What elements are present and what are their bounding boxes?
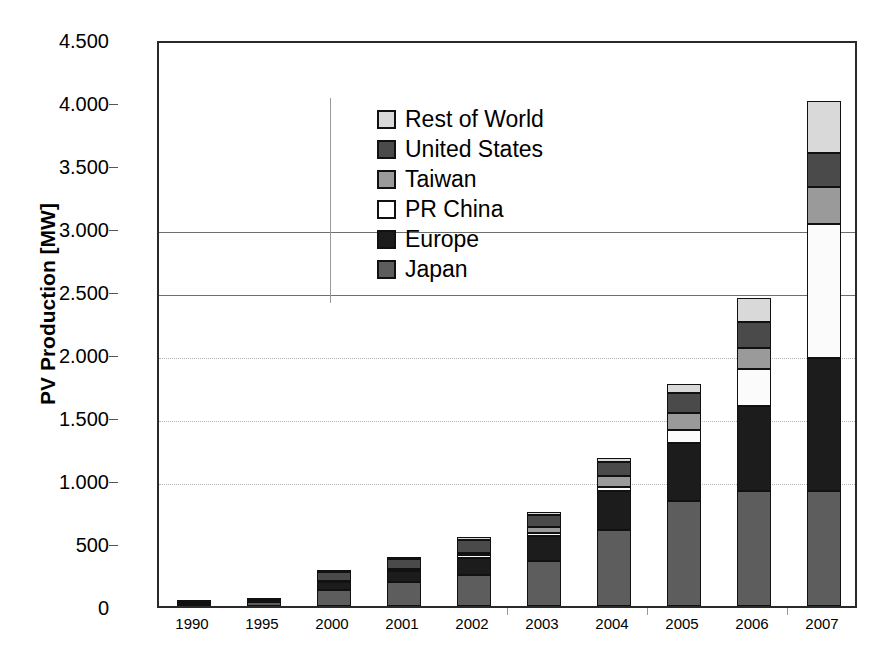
x-tick-mark (787, 608, 788, 615)
y-tick-label: 1.000 (59, 471, 109, 494)
legend-label: Europe (405, 228, 479, 251)
legend-label: Taiwan (405, 168, 477, 191)
y-tick-label: 0 (98, 597, 109, 620)
bar-segment-europe (527, 536, 561, 561)
x-tick-label-2004: 2004 (595, 615, 628, 632)
bar-2005 (667, 384, 701, 606)
x-tick-label-1990: 1990 (175, 615, 208, 632)
bar-segment-taiwan (737, 348, 771, 369)
bar-segment-united-states (807, 153, 841, 187)
y-tick-label: 1.500 (59, 408, 109, 431)
x-tick-label-2001: 2001 (385, 615, 418, 632)
bar-segment-united-states (737, 322, 771, 348)
bar-segment-pr-china (597, 487, 631, 491)
bar-segment-united-states (247, 598, 281, 600)
bar-segment-europe (387, 571, 421, 582)
x-tick-label-2007: 2007 (805, 615, 838, 632)
legend-label: Rest of World (405, 108, 544, 131)
chart-figure: PV Production [MW] 05001.0001.5002.0002.… (0, 0, 894, 661)
y-tick-label: 4.500 (59, 30, 109, 53)
bar-segment-europe (247, 600, 281, 603)
bar-segment-rest-of-world (457, 537, 491, 540)
bar-segment-japan (317, 590, 351, 606)
y-tick-mark (109, 230, 118, 231)
bar-segment-pr-china (737, 369, 771, 406)
legend-swatch-icon (377, 170, 396, 189)
bar-segment-europe (457, 558, 491, 575)
bar-segment-pr-china (527, 533, 561, 536)
y-tick-mark (109, 545, 118, 546)
legend-swatch-icon (377, 260, 396, 279)
bar-segment-japan (737, 491, 771, 606)
bar-2007 (807, 101, 841, 606)
bar-2004 (597, 458, 631, 606)
legend-item-europe: Europe (377, 224, 544, 254)
bar-segment-japan (807, 491, 841, 606)
legend-label: PR China (405, 198, 503, 221)
bar-segment-rest-of-world (597, 458, 631, 462)
bar-segment-europe (667, 443, 701, 501)
bar-segment-pr-china (807, 224, 841, 359)
legend-item-rest-of-world: Rest of World (377, 104, 544, 134)
bar-segment-united-states (387, 559, 421, 570)
bar-1990 (177, 602, 211, 606)
bar-segment-taiwan (527, 527, 561, 533)
legend: Rest of WorldUnited StatesTaiwanPR China… (330, 98, 620, 303)
x-tick-label-2002: 2002 (455, 615, 488, 632)
bar-segment-europe (807, 358, 841, 491)
x-tick-label-2006: 2006 (735, 615, 768, 632)
bar-segment-taiwan (597, 476, 631, 487)
y-tick-mark (109, 419, 118, 420)
bar-2000 (317, 571, 351, 606)
bar-segment-japan (247, 602, 281, 606)
x-tick-mark (507, 608, 508, 615)
bar-segment-japan (597, 530, 631, 606)
bar-segment-united-states (317, 572, 351, 581)
legend-label: United States (405, 138, 543, 161)
x-axis-tick-labels: 1990199520002001200220032004200520062007 (157, 615, 857, 655)
bar-segment-taiwan (457, 553, 491, 555)
bar-segment-europe (597, 491, 631, 530)
bar-segment-taiwan (667, 413, 701, 430)
bar-2006 (737, 298, 771, 606)
bar-segment-united-states (527, 515, 561, 528)
legend-item-japan: Japan (377, 254, 544, 284)
bar-segment-japan (387, 582, 421, 606)
y-tick-label: 4.000 (59, 93, 109, 116)
bar-segment-pr-china (667, 430, 701, 444)
legend-swatch-icon (377, 230, 396, 249)
legend-item-taiwan: Taiwan (377, 164, 544, 194)
bar-segment-rest-of-world (527, 512, 561, 515)
x-tick-label-1995: 1995 (245, 615, 278, 632)
x-tick-label-2005: 2005 (665, 615, 698, 632)
bar-segment-japan (527, 561, 561, 606)
y-tick-label: 3.500 (59, 156, 109, 179)
bar-segment-rest-of-world (387, 557, 421, 559)
x-tick-mark (647, 608, 648, 615)
bar-segment-rest-of-world (317, 570, 351, 572)
y-tick-mark (109, 293, 118, 294)
y-axis-tick-labels: 05001.0001.5002.0002.5003.0003.5004.0004… (0, 0, 157, 661)
bar-segment-rest-of-world (807, 101, 841, 153)
y-tick-mark (109, 356, 118, 357)
legend-items: Rest of WorldUnited StatesTaiwanPR China… (377, 104, 544, 284)
legend-swatch-icon (377, 140, 396, 159)
legend-item-pr-china: PR China (377, 194, 544, 224)
bar-segment-japan (457, 575, 491, 607)
bar-segment-japan (667, 501, 701, 606)
bar-segment-taiwan (807, 187, 841, 224)
bar-segment-united-states (597, 462, 631, 476)
legend-swatch-icon (377, 200, 396, 219)
legend-item-united-states: United States (377, 134, 544, 164)
legend-swatch-icon (377, 110, 396, 129)
y-tick-label: 2.500 (59, 282, 109, 305)
bar-segment-japan (177, 604, 211, 606)
y-tick-mark (109, 482, 118, 483)
bar-segment-europe (737, 406, 771, 492)
x-tick-label-2003: 2003 (525, 615, 558, 632)
y-tick-label: 500 (76, 534, 109, 557)
bar-segment-united-states (177, 600, 211, 602)
bar-segment-europe (177, 602, 211, 604)
y-tick-label: 2.000 (59, 345, 109, 368)
bar-segment-pr-china (457, 555, 491, 558)
